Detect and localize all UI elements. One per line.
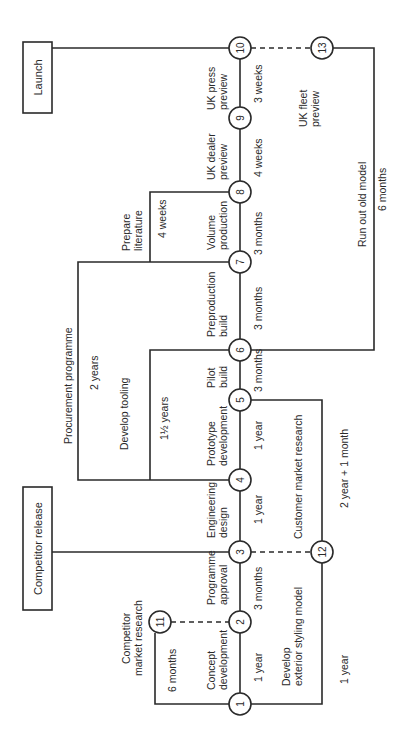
node-6: 6 xyxy=(229,339,251,361)
press-label-2: preview xyxy=(217,73,229,110)
procurement-duration: 2 years xyxy=(88,356,100,390)
svg-text:8: 8 xyxy=(235,189,246,195)
project-network-diagram: Launch Competitor release 1 2 3 4 5 6 7 … xyxy=(0,0,393,748)
svg-text:2: 2 xyxy=(235,619,246,625)
runout-duration: 6 months xyxy=(376,168,388,211)
svg-text:11: 11 xyxy=(155,616,166,627)
styling-duration: 1 year xyxy=(338,654,350,684)
svg-text:12: 12 xyxy=(317,546,328,558)
runout-label: Run out old model xyxy=(356,162,368,247)
volume-label-1: Volume xyxy=(205,215,217,250)
approval-label-2: approval xyxy=(217,565,229,605)
svg-text:6: 6 xyxy=(235,347,246,353)
preproduction-duration: 3 months xyxy=(252,287,264,330)
node-11: 11 xyxy=(149,611,171,633)
node-5: 5 xyxy=(229,389,251,411)
node-8: 8 xyxy=(229,181,251,203)
svg-text:7: 7 xyxy=(235,259,246,265)
approval-duration: 3 months xyxy=(252,567,264,610)
literature-label-1: Prepare xyxy=(120,213,132,251)
tooling-label: Develop tooling xyxy=(118,377,130,450)
competitor-research-label-1: Competitor xyxy=(120,612,132,664)
dealer-duration: 4 weeks xyxy=(252,138,264,177)
tooling-duration: 1½ years xyxy=(158,397,170,440)
pilot-label-1: Pilot xyxy=(205,367,217,388)
styling-label-2: exterior styling model xyxy=(292,587,304,686)
svg-text:3: 3 xyxy=(235,549,246,555)
competitor-release-label: Competitor release xyxy=(32,502,44,595)
node-7: 7 xyxy=(229,251,251,273)
prototype-duration: 1 year xyxy=(252,420,264,450)
svg-text:13: 13 xyxy=(317,42,328,54)
dealer-label-2: preview xyxy=(217,143,229,180)
engineering-duration: 1 year xyxy=(252,494,264,524)
literature-label-2: literature xyxy=(132,210,144,251)
fleet-label-2: preview xyxy=(309,90,321,127)
preproduction-label-2: build xyxy=(217,315,229,337)
prototype-label-2: development xyxy=(217,406,229,466)
svg-text:10: 10 xyxy=(235,42,246,54)
styling-label-1: Develop xyxy=(280,647,292,686)
engineering-label-2: design xyxy=(217,507,229,538)
pilot-label-2: build xyxy=(217,366,229,388)
literature-duration: 4 weeks xyxy=(156,199,168,238)
node-12: 12 xyxy=(311,541,333,563)
prototype-label-1: Prototype xyxy=(205,421,217,466)
competitor-research-duration: 6 months xyxy=(166,649,178,692)
preproduction-label-1: Preproduction xyxy=(205,271,217,337)
node-1: 1 xyxy=(229,693,251,715)
node-10: 10 xyxy=(229,37,251,59)
svg-text:5: 5 xyxy=(235,397,246,403)
volume-label-2: production xyxy=(217,201,229,250)
customer-research-label: Customer market research xyxy=(292,415,304,539)
launch-label: Launch xyxy=(32,59,44,95)
concept-duration: 1 year xyxy=(252,652,264,682)
press-duration: 3 weeks xyxy=(252,64,264,103)
concept-label-2: development xyxy=(217,630,229,690)
node-13: 13 xyxy=(311,37,333,59)
node-9: 9 xyxy=(229,107,251,129)
competitor-research-label-2: market research xyxy=(132,600,144,676)
svg-text:1: 1 xyxy=(235,701,246,707)
approval-label-1: Programme xyxy=(205,550,217,605)
node-2: 2 xyxy=(229,611,251,633)
dealer-label-1: UK dealer xyxy=(205,133,217,180)
concept-label-1: Concept xyxy=(205,651,217,690)
procurement-label: Procurement programme xyxy=(62,327,74,444)
node-4: 4 xyxy=(229,469,251,491)
node-3: 3 xyxy=(229,541,251,563)
pilot-duration: 3 months xyxy=(252,349,264,392)
volume-duration: 3 months xyxy=(252,212,264,255)
engineering-label-1: Engineering xyxy=(205,482,217,538)
fleet-label-1: UK fleet xyxy=(297,90,309,127)
press-label-1: UK press xyxy=(205,67,217,110)
svg-text:4: 4 xyxy=(235,477,246,483)
customer-research-duration: 2 year + 1 month xyxy=(338,429,350,508)
svg-text:9: 9 xyxy=(235,115,246,121)
